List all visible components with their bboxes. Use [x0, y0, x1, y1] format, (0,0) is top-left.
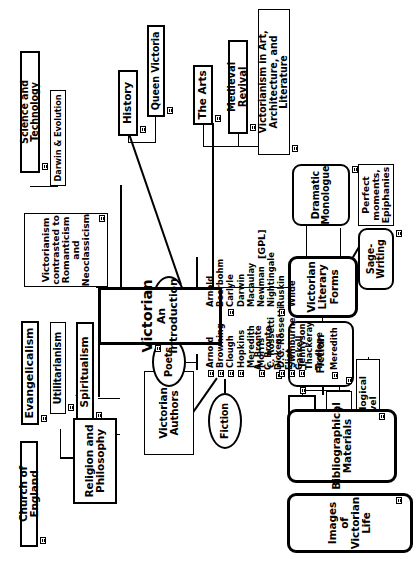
- fiction-author-extra-list: Meredith: [330, 327, 340, 379]
- page-marker-icon[interactable]: [292, 145, 298, 152]
- node-religion-and-philosophy[interactable]: Religion and Philosophy: [73, 418, 117, 504]
- page-marker-icon[interactable]: [289, 370, 295, 377]
- node-dramatic-monologue[interactable]: Dramatic Monologue: [292, 164, 350, 226]
- node-victorianism-in-art[interactable]: Victorianism in Art, Architecture, and L…: [258, 9, 290, 155]
- author-list-item[interactable]: Tennyson: [298, 306, 308, 377]
- node-medieval-revival[interactable]: Medieval Revival: [228, 40, 248, 134]
- node-science-and-technology[interactable]: Science and Technology: [20, 51, 40, 173]
- page-marker-icon[interactable]: [228, 370, 234, 377]
- connector-arts-b: [203, 125, 204, 147]
- connector-poets-list: [186, 362, 196, 363]
- author-name: Morris: [256, 338, 266, 368]
- author-name: Carlyle: [225, 274, 235, 307]
- page-marker-icon[interactable]: [68, 404, 74, 411]
- node-label: Dramatic Monologue: [311, 164, 332, 227]
- connector-epiphanies: [340, 228, 341, 256]
- node-victorianism-contrasted[interactable]: Victorianism contrasted to Romanticism a…: [24, 213, 108, 287]
- node-label: Church of England: [18, 443, 41, 545]
- author-name: Wilde: [287, 280, 297, 307]
- author-name: Tennyson: [297, 324, 307, 368]
- node-label: Victorianism contrasted to Romanticism a…: [41, 212, 91, 288]
- connector-fiction-list: [224, 379, 226, 393]
- node-fiction-authors[interactable]: Fiction: [208, 393, 242, 449]
- page-marker-icon[interactable]: [346, 377, 352, 384]
- author-name: Arnold: [205, 337, 215, 368]
- node-label: Sage-Writing: [366, 230, 387, 288]
- node-label: Science and Technology: [20, 53, 41, 171]
- page-marker-icon[interactable]: [228, 309, 234, 316]
- connector-spirit: [98, 398, 120, 399]
- author-name: Meredith: [329, 327, 339, 370]
- connector-church-b: [60, 429, 61, 459]
- node-history[interactable]: History: [118, 70, 138, 136]
- node-perfect-moments-epiphanies[interactable]: Perfect moments, Epiphanies: [358, 164, 394, 226]
- title-line-1: Victorian: [140, 278, 156, 355]
- node-label: Victorian Authors: [158, 385, 180, 440]
- prose-author-list: ArnoldBeerbohmCarlyleDarwinMacaulayNewma…: [206, 252, 298, 316]
- node-queen-victoria[interactable]: Queen Victoria: [147, 25, 165, 117]
- node-label: Victorian Literary Forms: [306, 259, 339, 315]
- connector-dramatic: [306, 226, 307, 256]
- author-name: Meredith: [246, 325, 256, 368]
- node-label: Perfect moments, Epiphanies: [361, 165, 391, 225]
- node-evangelicalism[interactable]: Evangelicalism: [21, 321, 39, 425]
- page-marker-icon[interactable]: [99, 215, 105, 222]
- connector-poets-list-b: [196, 354, 198, 370]
- connector-science-v: [30, 186, 58, 187]
- page-marker-icon[interactable]: [167, 107, 173, 114]
- node-bibliographical-materials[interactable]: Bibliographical Materials: [287, 409, 397, 483]
- node-label: The Arts: [197, 68, 208, 121]
- page-marker-icon[interactable]: [238, 370, 244, 377]
- author-list-item: Trollope: [315, 322, 325, 379]
- page-marker-icon[interactable]: [379, 413, 385, 420]
- page-marker-icon[interactable]: [300, 387, 306, 394]
- node-sage-writing[interactable]: Sage-Writing: [358, 228, 394, 290]
- page-marker-icon[interactable]: [396, 497, 402, 504]
- node-images-of-victorian-life[interactable]: Images of Victorian Life: [287, 493, 413, 553]
- node-the-arts[interactable]: The Arts: [193, 65, 213, 125]
- node-spiritualism[interactable]: Spiritualism: [76, 322, 94, 422]
- poets-author-list: ArnoldBrowningCloughHopkinsMeredithMorri…: [206, 306, 308, 377]
- author-name: Browning: [215, 323, 225, 368]
- author-name: Hopkins: [236, 330, 246, 368]
- page-marker-icon[interactable]: [279, 309, 285, 316]
- page-marker-icon[interactable]: [279, 370, 285, 377]
- node-label: Spiritualism: [79, 335, 90, 410]
- page-marker-icon[interactable]: [215, 115, 221, 122]
- node-label: Darwin & Evolution: [54, 93, 63, 184]
- connector-medieval: [238, 133, 239, 147]
- page-marker-icon[interactable]: [299, 370, 305, 377]
- node-label: Religion and Philosophy: [84, 423, 107, 500]
- node-label: Fiction: [220, 401, 230, 441]
- page-marker-icon[interactable]: [208, 370, 214, 377]
- gpl-credit: [GPL]: [257, 230, 268, 260]
- page-marker-icon[interactable]: [140, 126, 146, 133]
- author-name: C. Rossetti: [266, 317, 276, 368]
- page-marker-icon[interactable]: [259, 370, 265, 377]
- page-marker-icon[interactable]: [155, 345, 161, 352]
- page-marker-icon[interactable]: [250, 124, 256, 131]
- author-name: Trollope: [314, 332, 324, 370]
- page-marker-icon[interactable]: [396, 230, 402, 237]
- page-marker-icon[interactable]: [42, 163, 48, 170]
- node-church-of-england[interactable]: Church of England: [20, 441, 38, 547]
- author-name: Beerbohm: [215, 259, 225, 307]
- page-marker-icon[interactable]: [96, 412, 102, 419]
- author-name: Newman: [256, 266, 266, 307]
- author-name: Swinburne: [287, 318, 297, 368]
- node-darwin-and-evolution[interactable]: Darwin & Evolution: [50, 90, 66, 186]
- node-utilitarianism[interactable]: Utilitarianism: [50, 322, 66, 414]
- page-marker-icon[interactable]: [41, 415, 47, 422]
- page-marker-icon[interactable]: [218, 370, 224, 377]
- author-name: Macaulay: [246, 263, 256, 307]
- page-marker-icon[interactable]: [40, 537, 46, 544]
- page-marker-icon[interactable]: [352, 166, 358, 173]
- page-marker-icon[interactable]: [332, 372, 338, 379]
- author-name: Nightingale: [266, 252, 276, 307]
- author-name: Clough: [225, 335, 235, 368]
- title-line-2: An Introduction: [156, 276, 180, 356]
- node-victorian-an-introduction[interactable]: Victorian An Introduction: [98, 287, 222, 345]
- author-list-item[interactable]: Meredith: [330, 327, 340, 379]
- author-list-item: Wilde: [288, 252, 298, 316]
